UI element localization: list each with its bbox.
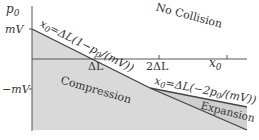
no-collision-label: No Collision [154, 1, 223, 31]
x-axis-label: x0 [209, 56, 222, 72]
phase-diagram: p0 mV −mV ΔL 2ΔL x0 No Collision Compres… [0, 0, 259, 140]
tick-label-dL: ΔL [88, 60, 104, 73]
tick-label-2dL: 2ΔL [146, 60, 169, 73]
y-axis-label: p0 [6, 2, 20, 18]
tick-label-neg-mV: −mV [2, 83, 31, 96]
tick-label-mV: mV [5, 23, 24, 36]
